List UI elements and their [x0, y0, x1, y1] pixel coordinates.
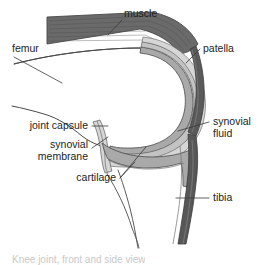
label-synovial-fluid-line2: fluid — [213, 127, 232, 139]
label-tibia: tibia — [213, 191, 232, 203]
label-synovial-membrane-line1: synovial — [50, 138, 88, 150]
label-synovial-membrane-line2: membrane — [38, 150, 88, 162]
label-cartilage: cartilage — [76, 171, 116, 183]
label-synovial-fluid-line1: synovial — [213, 115, 251, 127]
label-joint-capsule: joint capsule — [29, 119, 89, 131]
figure-caption-clipped: Knee joint, front and side view — [12, 254, 145, 265]
label-muscle: muscle — [124, 7, 157, 19]
label-femur: femur — [12, 42, 39, 54]
label-patella: patella — [203, 42, 234, 54]
